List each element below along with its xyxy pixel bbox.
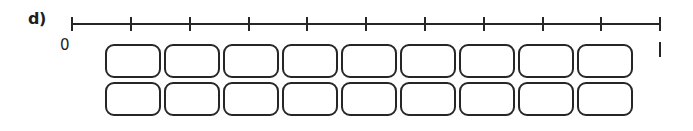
unit-box[interactable]	[459, 44, 515, 78]
unit-box[interactable]	[400, 44, 456, 78]
number-line-geometry	[72, 17, 660, 31]
unit-box[interactable]	[282, 82, 338, 116]
unit-box[interactable]	[164, 44, 220, 78]
unit-box[interactable]	[577, 44, 633, 78]
unit-box[interactable]	[282, 44, 338, 78]
number-line-end-mark	[659, 42, 661, 57]
unit-box[interactable]	[341, 82, 397, 116]
unit-box[interactable]	[223, 82, 279, 116]
unit-box[interactable]	[223, 44, 279, 78]
unit-box[interactable]	[341, 44, 397, 78]
worksheet-figure: d) 0	[0, 0, 693, 131]
unit-box[interactable]	[577, 82, 633, 116]
unit-box[interactable]	[459, 82, 515, 116]
box-row-1	[105, 44, 633, 78]
unit-box[interactable]	[164, 82, 220, 116]
box-row-2	[105, 82, 633, 116]
unit-box[interactable]	[518, 82, 574, 116]
unit-box[interactable]	[518, 44, 574, 78]
unit-box[interactable]	[105, 82, 161, 116]
unit-box[interactable]	[400, 82, 456, 116]
unit-box-grid	[105, 44, 633, 116]
unit-box[interactable]	[105, 44, 161, 78]
number-line	[0, 0, 693, 50]
